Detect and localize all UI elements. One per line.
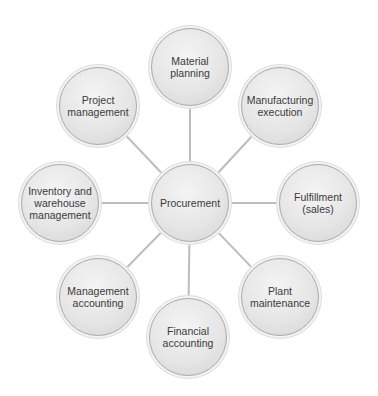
- node-project-management: Project management: [59, 67, 137, 145]
- connector-line: [127, 233, 160, 267]
- node-label: Financial accounting: [163, 325, 214, 349]
- node-inventory-warehouse-management: Inventory and warehouse management: [21, 164, 99, 242]
- node-label: Management accounting: [67, 285, 128, 309]
- node-label: Procurement: [160, 197, 220, 209]
- node-plant-maintenance: Plant maintenance: [241, 258, 319, 336]
- node-label: Inventory and warehouse management: [28, 185, 92, 221]
- node-material-planning: Material planning: [151, 28, 229, 106]
- node-fulfillment-sales: Fulfillment (sales): [279, 164, 357, 242]
- node-label: Project management: [67, 94, 128, 118]
- procurement-hub-diagram: Procurement Material planning Manufactur…: [0, 0, 378, 396]
- node-procurement: Procurement: [151, 164, 229, 242]
- node-manufacturing-execution: Manufacturing execution: [241, 67, 319, 145]
- connector-line: [219, 233, 251, 266]
- node-management-accounting: Management accounting: [59, 258, 137, 336]
- connector-line: [127, 136, 161, 172]
- node-label: Manufacturing execution: [247, 94, 314, 118]
- connector-line: [189, 245, 190, 295]
- node-financial-accounting: Financial accounting: [149, 298, 227, 376]
- node-label: Fulfillment (sales): [294, 191, 342, 215]
- node-label: Plant maintenance: [250, 285, 310, 309]
- connector-line: [219, 137, 252, 172]
- node-label: Material planning: [170, 55, 210, 79]
